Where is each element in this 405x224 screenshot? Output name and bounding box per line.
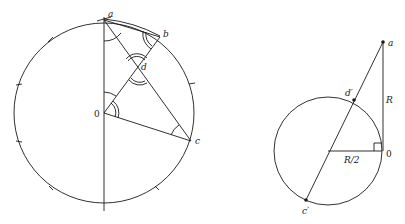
angle-at-o-inner bbox=[111, 103, 116, 117]
label-c: c bbox=[195, 136, 200, 146]
left-diagram: a b d 0 c bbox=[14, 9, 200, 211]
tick-marks bbox=[16, 17, 195, 190]
right-diagram: a d′ 0 c′ R R/2 bbox=[274, 38, 393, 216]
chord-ab bbox=[104, 20, 160, 37]
line-ob bbox=[104, 37, 160, 113]
label-d-prime: d′ bbox=[345, 88, 353, 98]
line-a-cprime bbox=[306, 42, 383, 200]
line-ac bbox=[104, 20, 191, 141]
diagram-canvas: a b d 0 c a d′ 0 c′ R R/2 bbox=[0, 0, 405, 224]
label-a: a bbox=[108, 9, 113, 19]
angle-at-o-top bbox=[104, 92, 116, 96]
label-origin: 0 bbox=[386, 149, 392, 159]
label-a: a bbox=[388, 38, 393, 48]
label-radius: R bbox=[385, 95, 393, 105]
angle-at-c bbox=[171, 125, 179, 135]
point-a bbox=[381, 40, 385, 44]
line-oc bbox=[104, 113, 191, 141]
label-half-radius: R/2 bbox=[343, 155, 360, 165]
label-c-prime: c′ bbox=[302, 206, 309, 216]
point-d-prime bbox=[352, 98, 356, 102]
point-c-prime bbox=[304, 198, 308, 202]
label-b: b bbox=[163, 29, 169, 39]
label-origin: 0 bbox=[94, 109, 100, 119]
right-angle-marker bbox=[374, 143, 382, 151]
label-d: d bbox=[141, 62, 147, 72]
angle-at-d-bottom-inner bbox=[131, 78, 145, 82]
